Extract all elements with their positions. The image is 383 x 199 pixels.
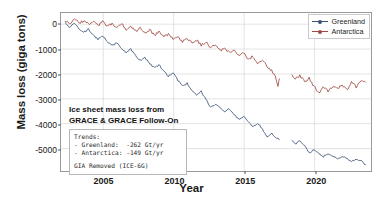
trend-greenland: - Greenland: -262 Gt/yr bbox=[74, 141, 182, 149]
y-tick-label: -1000 bbox=[35, 45, 57, 55]
legend-label-antarctica: Antarctica bbox=[331, 27, 363, 36]
x-tick-label: 2010 bbox=[164, 176, 184, 186]
annotation-block: Ice sheet mass loss from GRACE & GRACE F… bbox=[69, 105, 209, 175]
x-tick-label: 2005 bbox=[94, 176, 114, 186]
y-tick-label: -2000 bbox=[35, 70, 57, 80]
ice-sheet-mass-loss-chart: Mass loss (giga tons) Year 0-1000-2000-3… bbox=[0, 0, 383, 199]
y-tick-mark bbox=[58, 24, 61, 25]
y-tick-mark bbox=[58, 150, 61, 151]
x-tick-label: 2020 bbox=[306, 176, 326, 186]
legend-swatch-antarctica bbox=[312, 28, 328, 35]
y-tick-label: -4000 bbox=[35, 120, 57, 130]
x-tick-mark bbox=[245, 171, 246, 174]
annotation-line-2: GRACE & GRACE Follow-On bbox=[69, 116, 209, 127]
x-tick-mark bbox=[316, 171, 317, 174]
legend-swatch-greenland bbox=[312, 18, 328, 25]
legend-item-greenland[interactable]: Greenland bbox=[312, 17, 365, 26]
x-tick-label: 2015 bbox=[235, 176, 255, 186]
chart-legend[interactable]: Greenland Antarctica bbox=[308, 14, 370, 39]
legend-label-greenland: Greenland bbox=[331, 17, 365, 26]
gia-note: GIA Removed (ICE-6G) bbox=[74, 162, 182, 170]
y-tick-mark bbox=[58, 74, 61, 75]
trend-antarctica: - Antarctica: -149 Gt/yr bbox=[74, 149, 182, 157]
y-tick-label: 0 bbox=[52, 19, 57, 29]
trends-box: Trends: - Greenland: -262 Gt/yr - Antarc… bbox=[69, 129, 187, 175]
legend-item-antarctica[interactable]: Antarctica bbox=[312, 27, 365, 36]
y-tick-label: -3000 bbox=[35, 95, 57, 105]
y-tick-mark bbox=[58, 125, 61, 126]
y-tick-mark bbox=[58, 49, 61, 50]
trends-header: Trends: bbox=[74, 133, 182, 141]
plot-area: 0-1000-2000-3000-4000-5000 2005201020152… bbox=[60, 12, 372, 172]
y-axis-label: Mass loss (giga tons) bbox=[15, 0, 27, 147]
y-tick-label: -5000 bbox=[35, 145, 57, 155]
annotation-line-1: Ice sheet mass loss from bbox=[69, 105, 209, 116]
y-tick-mark bbox=[58, 99, 61, 100]
